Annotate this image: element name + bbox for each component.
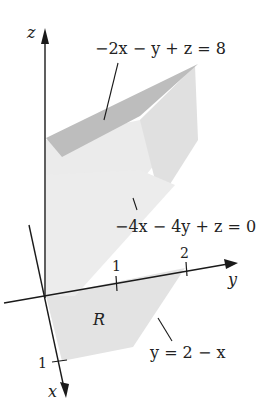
diagram-canvas: z y x 1 2 1 −2x − y + z = 8 −4x − 4y + z… bbox=[0, 0, 279, 409]
boundary-leader bbox=[158, 318, 172, 341]
y-axis-label: y bbox=[227, 270, 238, 289]
region-label: R bbox=[92, 310, 105, 329]
x-axis-label: x bbox=[48, 382, 57, 401]
y-axis-arrowhead bbox=[224, 259, 238, 269]
y-tick-label-2: 2 bbox=[180, 245, 189, 261]
x-tick-label-1: 1 bbox=[38, 355, 47, 371]
z-axis-label: z bbox=[26, 23, 36, 42]
bottom-plane-equation: −4x − 4y + z = 0 bbox=[115, 217, 256, 236]
boundary-equation: y = 2 − x bbox=[149, 343, 225, 362]
x-tick-1 bbox=[52, 360, 67, 362]
z-axis-arrowhead bbox=[41, 28, 49, 44]
y-tick-label-1: 1 bbox=[112, 258, 121, 274]
y-tick-2 bbox=[186, 262, 187, 276]
x-axis-arrowhead bbox=[60, 382, 69, 398]
top-plane-equation: −2x − y + z = 8 bbox=[95, 39, 226, 58]
